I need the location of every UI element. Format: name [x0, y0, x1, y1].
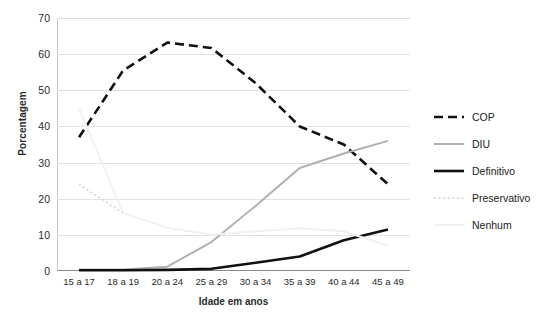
y-tick-label: 60 — [6, 48, 50, 60]
plot-area — [57, 18, 410, 271]
series-line-definitivo — [79, 229, 388, 270]
series-line-diu — [79, 141, 388, 270]
x-tick-label: 20 a 24 — [151, 276, 183, 287]
y-tick-label: 50 — [6, 84, 50, 96]
legend-item-diu[interactable]: DIU — [434, 130, 546, 157]
x-tick-label: 18 a 19 — [107, 276, 139, 287]
series-line-cop — [79, 43, 388, 185]
legend-swatch-definitivo-icon — [434, 165, 464, 177]
x-tick-label: 45 a 49 — [372, 276, 404, 287]
legend-item-definitivo[interactable]: Definitivo — [434, 157, 546, 184]
y-tick-label: 10 — [6, 229, 50, 241]
y-tick-label: 70 — [6, 12, 50, 24]
x-tick-label: 40 a 44 — [328, 276, 360, 287]
series-lines — [57, 18, 410, 271]
y-tick-label: 30 — [6, 157, 50, 169]
x-tick-label: 15 a 17 — [63, 276, 95, 287]
x-axis-title: Idade em anos — [57, 296, 410, 307]
y-tick-label: 0 — [6, 265, 50, 277]
legend-item-preservativo[interactable]: Preservativo — [434, 184, 546, 211]
chart-container: Porcentagem 010203040506070 15 a 1718 a … — [0, 0, 548, 326]
legend-item-nenhum[interactable]: Nenhum — [434, 211, 546, 238]
y-axis-tick-labels: 010203040506070 — [0, 18, 50, 271]
x-tick-label: 35 a 39 — [284, 276, 316, 287]
legend-swatch-nenhum-icon — [434, 219, 464, 231]
legend-swatch-preservativo-icon — [434, 192, 464, 204]
y-tick-label: 20 — [6, 193, 50, 205]
legend-label: COP — [472, 111, 495, 123]
chart-legend: COPDIUDefinitivoPreservativoNenhum — [434, 103, 546, 238]
legend-swatch-cop-icon — [434, 111, 464, 123]
legend-label: Preservativo — [472, 192, 530, 204]
legend-label: Definitivo — [472, 165, 515, 177]
x-axis-tick-labels: 15 a 1718 a 1920 a 2425 a 2930 a 3435 a … — [57, 276, 410, 292]
legend-swatch-diu-icon — [434, 138, 464, 150]
x-tick-label: 30 a 34 — [240, 276, 272, 287]
series-line-preservativo — [79, 184, 388, 245]
legend-label: DIU — [472, 138, 490, 150]
legend-item-cop[interactable]: COP — [434, 103, 546, 130]
legend-label: Nenhum — [472, 219, 512, 231]
y-tick-label: 40 — [6, 120, 50, 132]
x-tick-label: 25 a 29 — [196, 276, 228, 287]
